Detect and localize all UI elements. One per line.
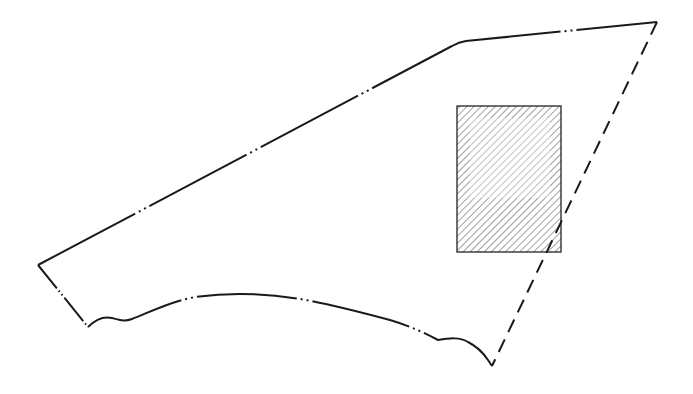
outline-left-edge <box>38 265 88 327</box>
hatched-region <box>457 106 561 252</box>
outline-bottom-edge <box>88 294 492 366</box>
figure-svg <box>0 0 693 394</box>
diagram-canvas <box>0 0 693 394</box>
outline-upper-edge <box>38 41 466 265</box>
outline-top-edge <box>466 22 657 41</box>
